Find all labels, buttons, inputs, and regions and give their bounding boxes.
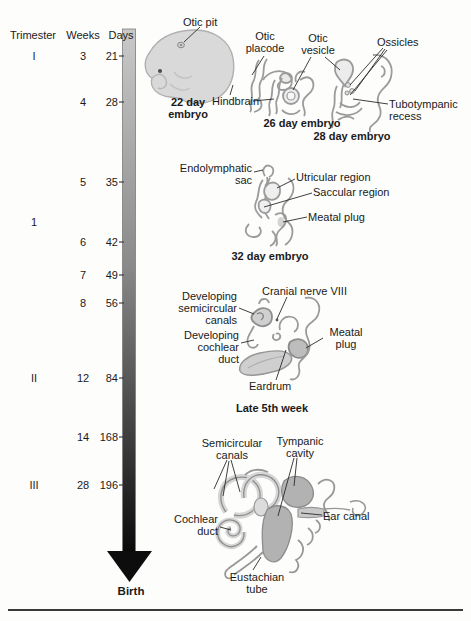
days-value: 196	[84, 479, 118, 491]
label-ossicles: Ossicles	[377, 36, 419, 48]
days-value: 42	[84, 236, 118, 248]
days-value: 21	[84, 50, 118, 62]
label-ear-canal: Ear canal	[323, 510, 369, 522]
trimester-value: III	[8, 479, 60, 491]
label-otic-pit: Otic pit	[183, 16, 217, 28]
days-value: 56	[84, 297, 118, 309]
label-eardrum: Eardrum	[249, 380, 291, 392]
label-hindbrain: Hindbrain	[212, 95, 259, 107]
trimester-value: II	[8, 372, 60, 384]
label-cranial-nerve-viii: Cranial nerve VIII	[262, 285, 347, 297]
timeline-end-label-birth: Birth	[103, 585, 159, 597]
birth-ear-drawing	[218, 470, 366, 578]
label-semicircular-canals: Semicircular canals	[197, 437, 267, 461]
bottom-rule	[8, 609, 463, 611]
label-tympanic-cavity: Tympanic cavity	[271, 435, 329, 459]
days-value: 84	[84, 372, 118, 384]
caption-28-day-embryo: 28 day embryo	[309, 130, 395, 142]
label-developing-cochlear-duct: Developing cochlear duct	[175, 329, 239, 365]
ear-development-figure: Trimester Weeks Days I 3 21 4 28 5 35 1 …	[0, 0, 471, 621]
days-value: 168	[84, 431, 118, 443]
label-saccular-region: Saccular region	[313, 186, 389, 198]
column-header-days: Days	[96, 29, 146, 41]
trimester-value: I	[8, 50, 60, 62]
caption-32-day-embryo: 32 day embryo	[227, 250, 313, 262]
trimester-value: 1	[8, 216, 60, 228]
label-developing-semicircular-canals: Developing semicircular canals	[173, 290, 237, 326]
embryo-22-drawing	[145, 30, 234, 104]
label-endolymphatic-sac: Endolymphatic sac	[176, 162, 252, 186]
late-5th-week-drawing	[240, 298, 320, 380]
days-value: 49	[84, 269, 118, 281]
label-cochlear-duct: Cochlear duct	[172, 513, 218, 537]
days-value: 28	[84, 96, 118, 108]
label-otic-vesicle: Otic vesicle	[297, 32, 339, 56]
label-utricular-region: Utricular region	[296, 171, 371, 183]
label-otic-placode: Otic placode	[240, 30, 290, 54]
caption-late-5th-week: Late 5th week	[229, 402, 315, 414]
caption-26-day-embryo: 26 day embryo	[259, 117, 345, 129]
caption-22-day-embryo: 22 day embryo	[160, 96, 216, 120]
days-value: 35	[84, 176, 118, 188]
column-header-trimester: Trimester	[6, 29, 60, 41]
label-eustachian-tube: Eustachian tube	[229, 571, 285, 595]
label-meatal-plug-5th-week: Meatal plug	[325, 326, 367, 350]
label-meatal-plug-32day: Meatal plug	[308, 211, 365, 223]
label-tubotympanic-recess: Tubotympanic recess	[389, 98, 465, 122]
